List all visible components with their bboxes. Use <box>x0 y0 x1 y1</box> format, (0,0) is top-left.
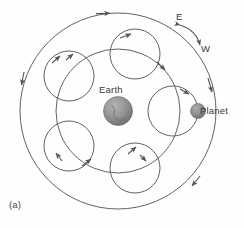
epicycle-lower-left <box>44 121 94 171</box>
west-label: W <box>201 43 210 54</box>
panel-label: (a) <box>9 199 21 210</box>
arrow-epicycle-upper-right <box>120 34 131 38</box>
planet-label: Planet <box>200 105 228 116</box>
epicycle-figure: Earth Planet E W (a) <box>0 0 244 228</box>
east-label: E <box>176 11 183 22</box>
earth-sphere <box>104 97 133 126</box>
arrow-deferent-upper-right <box>157 62 165 70</box>
epicycle-upper-right <box>110 29 160 79</box>
epicycle-lower-right <box>110 143 160 193</box>
epicycle-upper-left <box>44 51 94 101</box>
earth-body <box>104 97 133 126</box>
arrow-deferent-lower-right <box>140 155 146 161</box>
arrow-outer-lower-right <box>192 176 200 186</box>
earth-label: Earth <box>99 84 123 95</box>
arrow-deferent-lower-left <box>56 153 62 161</box>
east-west-direction-arc <box>180 25 200 45</box>
arrow-epicycle-right <box>180 89 189 94</box>
arrow-deferent-upper-left <box>66 54 73 60</box>
arrow-epicycle-lower-right <box>128 147 136 154</box>
